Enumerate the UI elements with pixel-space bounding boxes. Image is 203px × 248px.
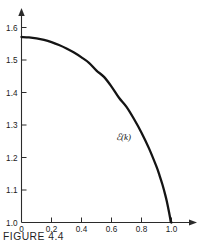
x-axis-arrow-icon [189, 219, 197, 225]
curve-label: ℰ(k) [116, 132, 131, 142]
x-tick-label: 0.8 [136, 225, 148, 234]
figure-caption: FIGURE 4.4 [3, 231, 64, 242]
y-tick-label: 1.5 [6, 56, 18, 65]
x-tick-label: 1.0 [166, 225, 178, 234]
y-tick-label: 1.3 [6, 121, 18, 130]
y-tick-label: 1.0 [6, 219, 18, 228]
x-axis-tick-marks [52, 218, 172, 223]
x-tick-label: 0.6 [106, 225, 118, 234]
x-tick-label: 0.4 [76, 225, 88, 234]
figure-container: 1.01.11.21.31.41.51.6 00.20.40.60.81.0 ℰ… [0, 0, 203, 248]
y-axis-tick-marks [22, 28, 27, 191]
y-axis-arrow-icon [18, 8, 24, 16]
y-axis-tick-labels: 1.01.11.21.31.41.51.6 [6, 24, 18, 228]
y-tick-label: 1.6 [6, 24, 18, 33]
y-tick-label: 1.1 [6, 186, 18, 195]
plot-area: 1.01.11.21.31.41.51.6 00.20.40.60.81.0 ℰ… [0, 0, 203, 248]
elliptic-integral-curve [22, 37, 172, 223]
curve-annotation-group: ℰ(k) [116, 132, 131, 142]
y-tick-label: 1.2 [6, 154, 18, 163]
y-tick-label: 1.4 [6, 89, 18, 98]
